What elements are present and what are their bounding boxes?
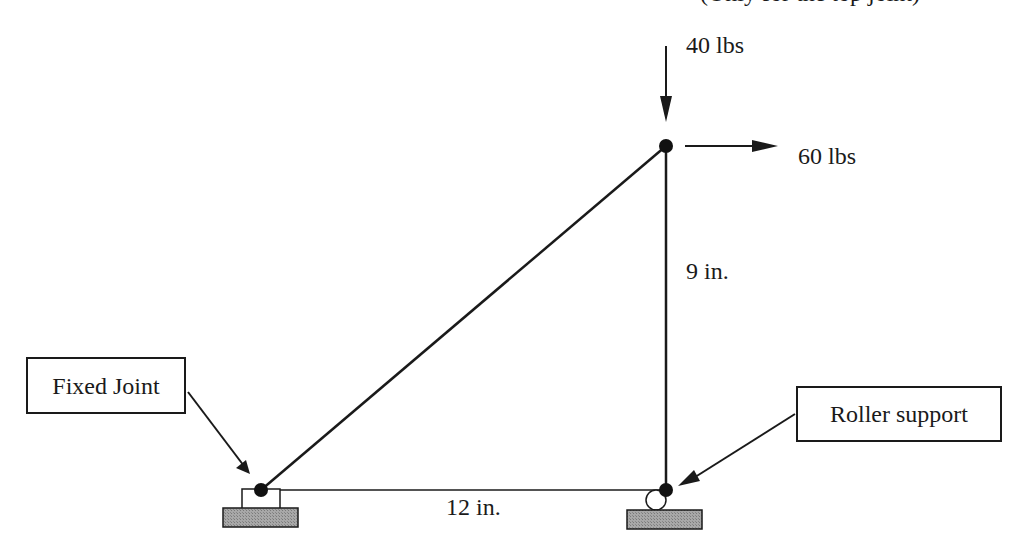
load-40-label: 40 lbs — [686, 33, 744, 57]
dimension-vertical-label: 9 in. — [686, 259, 729, 283]
roller-leader-arrow-icon — [678, 414, 795, 486]
fixed-joint-label: Fixed Joint — [52, 374, 159, 398]
joint-top — [659, 139, 673, 153]
roller-support-label: Roller support — [830, 402, 968, 426]
arrow-right-icon — [685, 140, 778, 152]
truss-diagram — [0, 0, 1026, 553]
joint-bottom-left — [254, 483, 268, 497]
arrow-down-icon — [660, 46, 672, 122]
truss-members — [261, 146, 666, 490]
joint-bottom-right — [659, 483, 673, 497]
dimension-horizontal-label: 12 in. — [446, 495, 501, 519]
fixed-joint-callout: Fixed Joint — [26, 357, 186, 414]
fixed-leader-arrow-icon — [188, 392, 250, 474]
load-60-label: 60 lbs — [798, 144, 856, 168]
roller-support-callout: Roller support — [796, 386, 1002, 442]
diagonal-member — [261, 146, 666, 490]
